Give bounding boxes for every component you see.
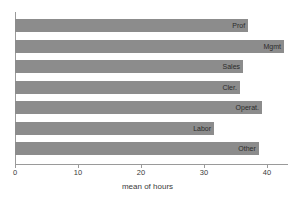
bar-label: Operat. [12,101,262,114]
bar-row: Operat. [15,101,262,114]
bar-label: Mgmt [12,40,284,53]
x-tick-label: 20 [131,168,151,177]
bar-label: Other [12,142,259,155]
bar-row: Sales [15,60,243,73]
x-axis-line [15,164,288,165]
bar-row: Other [15,142,259,155]
bar-label: Prof [12,19,248,32]
x-tick-label: 30 [194,168,214,177]
bar-chart: ProfMgmtSalesCler.Operat.LaborOther 0102… [0,0,295,207]
x-tick-label: 0 [5,168,25,177]
bar-row: Cler. [15,81,240,94]
bar-row: Mgmt [15,40,284,53]
bar-row: Prof [15,19,248,32]
bar-label: Labor [12,122,214,135]
bar-label: Sales [12,60,243,73]
bar-label: Cler. [12,81,240,94]
bar-row: Labor [15,122,214,135]
x-tick-label: 40 [257,168,277,177]
plot-area: ProfMgmtSalesCler.Operat.LaborOther 0102… [0,0,295,176]
x-tick-label: 10 [68,168,88,177]
x-axis-title: mean of hours [0,182,295,191]
